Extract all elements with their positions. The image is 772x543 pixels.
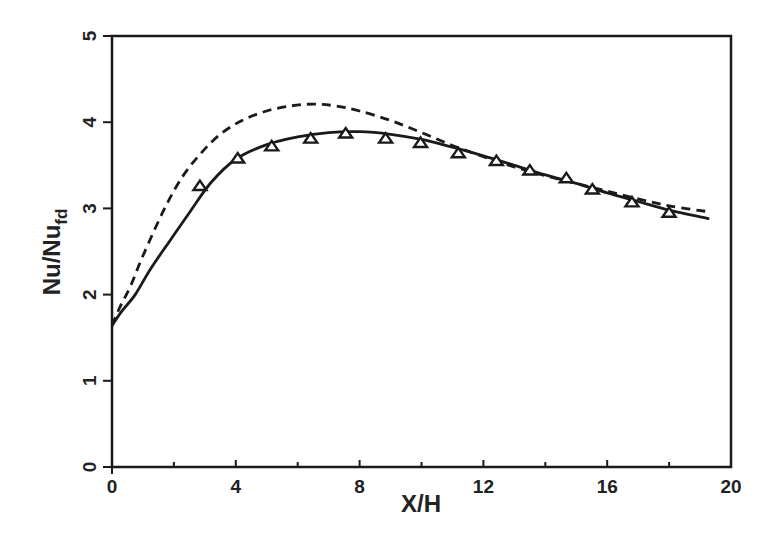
x-tick-label: 0 <box>107 476 118 497</box>
y-tick-label: 4 <box>79 116 100 127</box>
x-tick-label: 8 <box>354 476 365 497</box>
triangle-marker <box>193 181 206 190</box>
svg-text:Nu/Nufd: Nu/Nufd <box>38 209 71 296</box>
x-tick-label: 4 <box>231 476 242 497</box>
y-axis-ticks: 012345 <box>79 30 112 472</box>
svg-text:2: 2 <box>79 289 100 300</box>
svg-text:5: 5 <box>79 30 100 41</box>
x-tick-label: 20 <box>720 476 741 497</box>
solid-curve <box>112 132 709 326</box>
svg-text:4: 4 <box>79 116 100 127</box>
chart: 012345 048121620 X/H Nu/Nufd <box>0 0 772 543</box>
svg-text:3: 3 <box>79 203 100 214</box>
y-tick-label: 5 <box>79 30 100 41</box>
x-tick-label: 16 <box>597 476 618 497</box>
y-axis-label-subscript: fd <box>52 209 71 225</box>
triangle-marker <box>560 173 573 182</box>
x-tick-label: 12 <box>473 476 494 497</box>
triangle-marker <box>339 128 352 137</box>
y-tick-label: 0 <box>79 462 100 473</box>
plot-frame <box>112 36 731 467</box>
x-axis-label: X/H <box>401 490 441 517</box>
y-tick-label: 3 <box>79 203 100 214</box>
svg-text:0: 0 <box>79 462 100 473</box>
svg-text:1: 1 <box>79 375 100 386</box>
y-axis-label-main: Nu/Nu <box>38 225 65 296</box>
y-axis-label: Nu/Nufd <box>38 209 71 296</box>
y-tick-label: 2 <box>79 289 100 300</box>
y-tick-label: 1 <box>79 375 100 386</box>
triangle-marker <box>523 165 536 174</box>
series-layer <box>112 104 709 326</box>
